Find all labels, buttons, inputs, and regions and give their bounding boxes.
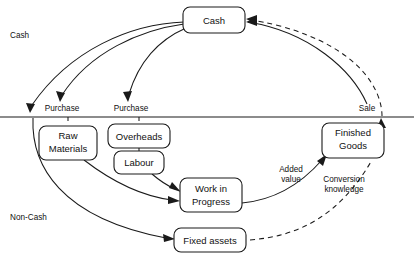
node-fixed-assets-label: Fixed assets — [183, 235, 237, 246]
arrowhead-cash-left — [26, 103, 35, 113]
node-cash-label: Cash — [203, 15, 225, 26]
edge-label-purchase-1: Purchase — [45, 104, 80, 113]
node-raw-materials-label-line1: Raw — [58, 130, 77, 141]
node-fixed-assets[interactable]: Fixed assets — [174, 228, 246, 252]
arrowhead-fixed-assets — [163, 234, 175, 242]
node-overheads[interactable]: Overheads — [108, 124, 170, 148]
node-cash[interactable]: Cash — [183, 7, 245, 33]
edge-cash-to-purchase-2 — [129, 28, 186, 94]
node-work-in-progress[interactable]: Work in Progress — [180, 178, 242, 212]
node-wip-label-line1: Work in — [195, 183, 227, 194]
arrowhead-raw-materials-wip — [168, 196, 180, 204]
edge-dashed-to-cash — [249, 20, 382, 116]
edge-label-conversion-knowledge-line1: Conversion — [323, 175, 365, 184]
arrowhead-purchase-2 — [123, 91, 132, 102]
edge-label-conversion-knowledge-line2: knowledge — [324, 185, 364, 194]
node-finished-goods-label-line2: Goods — [339, 140, 367, 151]
edge-label-added-value-line1: Added — [279, 165, 303, 174]
node-labour-label: Labour — [124, 157, 154, 168]
node-wip-label-line2: Progress — [192, 196, 230, 207]
zone-label-cash: Cash — [10, 31, 30, 40]
node-raw-materials-label-line2: Materials — [49, 143, 88, 154]
edge-label-sale: Sale — [359, 104, 376, 113]
zone-label-non-cash: Non-Cash — [10, 213, 47, 222]
edge-label-purchase-2: Purchase — [114, 104, 149, 113]
node-raw-materials[interactable]: Raw Materials — [39, 126, 97, 160]
node-finished-goods-label-line1: Finished — [335, 127, 371, 138]
edge-label-added-value-line2: value — [281, 175, 301, 184]
node-finished-goods[interactable]: Finished Goods — [322, 123, 384, 158]
node-overheads-label: Overheads — [116, 131, 163, 142]
edge-finished-goods-to-cash — [248, 22, 367, 104]
edge-cash-to-left — [32, 22, 184, 105]
diagram-svg: Cash Raw Materials Overheads Labour Work… — [0, 0, 414, 261]
node-labour[interactable]: Labour — [114, 151, 164, 174]
arrowhead-labour-wip — [169, 182, 181, 192]
diagram-canvas: Cash Raw Materials Overheads Labour Work… — [0, 0, 414, 261]
